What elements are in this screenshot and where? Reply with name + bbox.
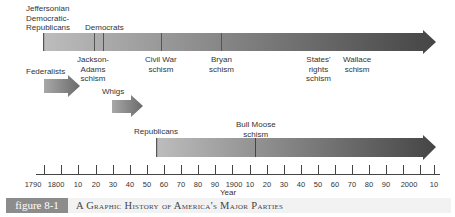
label-line: Adams: [77, 65, 109, 75]
tick: [147, 165, 148, 175]
tick: [198, 165, 199, 175]
tick: [335, 165, 336, 175]
tick-label: 40: [126, 180, 134, 189]
tick: [130, 165, 131, 175]
tick-label: 60: [331, 180, 339, 189]
tick-label: 90: [382, 180, 390, 189]
federalists-arrow: [43, 75, 81, 97]
tick: [250, 165, 251, 175]
x-axis-label: Year: [220, 188, 236, 198]
tick-label: 50: [314, 180, 322, 189]
label-states-rights-schism: States' rights schism: [306, 55, 331, 84]
tick-label: 40: [297, 180, 305, 189]
label-line: schism: [343, 65, 371, 75]
republicans-bar: [155, 135, 440, 161]
figure-caption: figure 8-1 A Graphic History of America'…: [6, 198, 451, 213]
tick-label: 10: [430, 180, 438, 189]
label-line: schism: [77, 74, 109, 84]
label-line: schism: [306, 74, 331, 84]
tick: [369, 165, 370, 175]
tick-label: 50: [143, 180, 151, 189]
whigs-arrow: [111, 95, 144, 118]
tick: [96, 165, 97, 175]
tick-label: 70: [348, 180, 356, 189]
tick: [352, 165, 353, 175]
label-bryan-schism: Bryan schism: [209, 55, 234, 74]
tick: [267, 165, 268, 175]
tick-label: 80: [194, 180, 202, 189]
label-line: States': [306, 55, 331, 65]
label-line: Jackson-: [77, 55, 109, 65]
democrats-bar: [40, 30, 440, 54]
tick-label: 10: [74, 180, 82, 189]
tick: [420, 165, 421, 175]
tick-label: 1790: [25, 180, 42, 189]
label-line: schism: [209, 65, 234, 75]
tick-label: 30: [109, 180, 117, 189]
tick-label: 60: [160, 180, 168, 189]
tick-label: 1800: [48, 180, 65, 189]
tick: [301, 165, 302, 175]
label-line: Jeffersonian: [26, 4, 70, 14]
tick: [181, 165, 182, 175]
label-line: Bryan: [209, 55, 234, 65]
tick: [113, 165, 114, 175]
tick-label: 70: [177, 180, 185, 189]
label-line: schism: [145, 65, 177, 75]
tick-label: 80: [365, 180, 373, 189]
label-line: Civil War: [145, 55, 177, 65]
tick: [318, 165, 319, 175]
tick: [44, 165, 45, 175]
label-jackson-adams-schism: Jackson- Adams schism: [77, 55, 109, 84]
tick: [284, 165, 285, 175]
tick: [215, 165, 216, 175]
tick-label: 20: [92, 180, 100, 189]
tick: [78, 165, 79, 175]
label-jeffersonian: Jeffersonian Democratic- Republicans: [26, 4, 70, 33]
label-wallace-schism: Wallace schism: [343, 55, 371, 74]
tick-label: 90: [211, 180, 219, 189]
tick: [164, 165, 165, 175]
figure-title: A Graphic History of America's Major Par…: [76, 198, 283, 213]
label-line: Wallace: [343, 55, 371, 65]
label-line: Democratic-: [26, 14, 70, 24]
tick-label: 2000: [401, 180, 418, 189]
tick: [61, 165, 62, 175]
label-line: rights: [306, 65, 331, 75]
tick: [403, 165, 404, 175]
tick: [232, 165, 233, 175]
tick-label: 20: [263, 180, 271, 189]
figure-badge: figure 8-1: [6, 198, 68, 213]
tick: [434, 165, 435, 175]
tick: [386, 165, 387, 175]
tick-label: 30: [280, 180, 288, 189]
label-line: Bull Moose: [236, 120, 276, 130]
label-civil-war-schism: Civil War schism: [145, 55, 177, 74]
tick-label: 10: [246, 180, 254, 189]
